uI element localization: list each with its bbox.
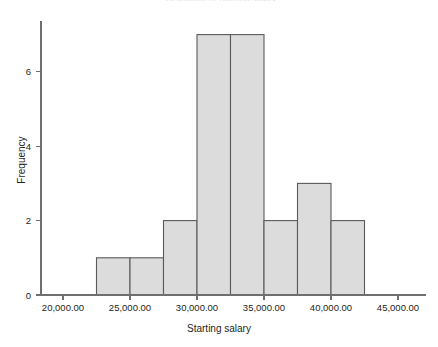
histogram-bar [298,183,332,295]
histogram-bar [97,258,131,295]
y-axis-title: Frequency [16,136,27,183]
y-tick-label: 2 [26,215,31,226]
histogram-bar [231,35,265,295]
y-tick-label: 0 [26,290,31,301]
x-tick-label: 30,000.00 [176,302,218,313]
x-tick-label: 35,000.00 [243,302,285,313]
y-tick-label: 6 [26,66,31,77]
x-tick-label: 40,000.00 [310,302,352,313]
x-tick-label: 45,000.00 [377,302,419,313]
histogram-bar [264,221,298,295]
x-axis-title: Starting salary [187,323,251,334]
y-axis-ticks: 0246 [26,66,41,300]
x-tick-label: 20,000.00 [42,302,84,313]
x-tick-label: 25,000.00 [109,302,151,313]
histogram-bar [164,221,198,295]
histogram-figure: Histogram of Starting salary 0246 20,000… [0,0,438,347]
histogram-bar [331,221,365,295]
x-axis-ticks: 20,000.0025,000.0030,000.0035,000.0040,0… [42,295,419,313]
chart-plot-area: 0246 20,000.0025,000.0030,000.0035,000.0… [0,0,438,347]
histogram-bar [197,35,231,295]
bars-group [97,35,365,295]
histogram-bar [130,258,164,295]
